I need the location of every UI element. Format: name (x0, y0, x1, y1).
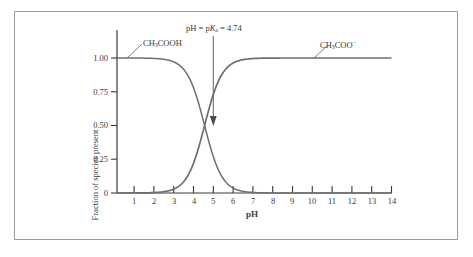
acid-label-leader (127, 44, 142, 58)
x-tick-label: 10 (304, 196, 320, 206)
base-label-prefix: CH (320, 40, 332, 50)
x-tick-label: 12 (344, 196, 360, 206)
acid-label-suffix: COOH (158, 38, 182, 48)
x-tick-label: 2 (146, 196, 162, 206)
x-tick-label: 3 (166, 196, 182, 206)
base-label-mid: COO (335, 40, 353, 50)
x-tick-label: 14 (384, 196, 400, 206)
x-tick-label: 8 (265, 196, 281, 206)
x-tick-label: 6 (225, 196, 241, 206)
y-axis-title-wrap: Fraction of species present (78, 50, 92, 195)
pka-annotation-label: pH = pKa = 4.74 (186, 23, 242, 33)
curve-acetate-ion (117, 58, 392, 193)
y-tick-marks (111, 58, 117, 193)
curve-acetic-acid (117, 58, 392, 193)
x-tick-label: 5 (205, 196, 221, 206)
pka-suffix: = 4.74 (218, 23, 242, 33)
x-tick-label: 1 (126, 196, 142, 206)
x-tick-label: 7 (245, 196, 261, 206)
x-axis-title: pH (232, 209, 272, 219)
y-axis-title: Fraction of species present (90, 100, 100, 250)
pka-arrow-head (210, 116, 217, 126)
base-label-sup: − (353, 40, 356, 46)
x-tick-label: 13 (364, 196, 380, 206)
acid-label-prefix: CH (143, 38, 155, 48)
x-tick-label: 4 (186, 196, 202, 206)
pka-prefix: pH = p (186, 23, 210, 33)
acid-species-label: CH3COOH (143, 38, 182, 48)
base-species-label: CH3COO− (320, 40, 356, 50)
x-tick-label: 11 (324, 196, 340, 206)
x-tick-label: 9 (284, 196, 300, 206)
